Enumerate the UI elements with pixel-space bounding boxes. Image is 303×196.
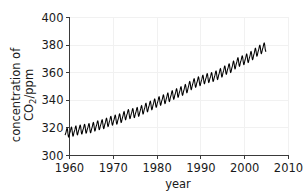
x-tick-label: 1970 — [99, 161, 128, 175]
y-axis-ticks: 300320340360380400 — [42, 11, 70, 163]
y-axis-title-co: CO — [22, 104, 36, 121]
x-axis-title: year — [165, 177, 191, 191]
y-tick-label: 360 — [42, 66, 64, 80]
y-tick-label: 380 — [42, 38, 64, 52]
x-tick-label: 2010 — [274, 161, 303, 175]
y-tick-label: 320 — [42, 121, 64, 135]
chart-canvas: 300320340360380400 196019701980199020002… — [0, 0, 303, 196]
co2-concentration-chart: 300320340360380400 196019701980199020002… — [0, 0, 303, 196]
x-axis-ticks: 196019701980199020002010 — [55, 156, 303, 175]
x-tick-label: 1960 — [55, 161, 84, 175]
x-tick-label: 1980 — [142, 161, 171, 175]
axis-spines — [70, 18, 289, 156]
gridlines — [70, 18, 289, 156]
y-axis-title-line1: concentration of — [9, 47, 23, 142]
y-tick-label: 340 — [42, 93, 64, 107]
y-tick-label: 400 — [42, 11, 64, 25]
y-axis-title-line2: CO2/ppm — [22, 69, 38, 121]
x-tick-label: 1990 — [186, 161, 215, 175]
x-tick-label: 2000 — [230, 161, 259, 175]
co2-series-line — [65, 43, 266, 137]
y-axis-title: concentration of CO2/ppm — [9, 47, 38, 142]
y-axis-title-units: /ppm — [22, 69, 36, 99]
